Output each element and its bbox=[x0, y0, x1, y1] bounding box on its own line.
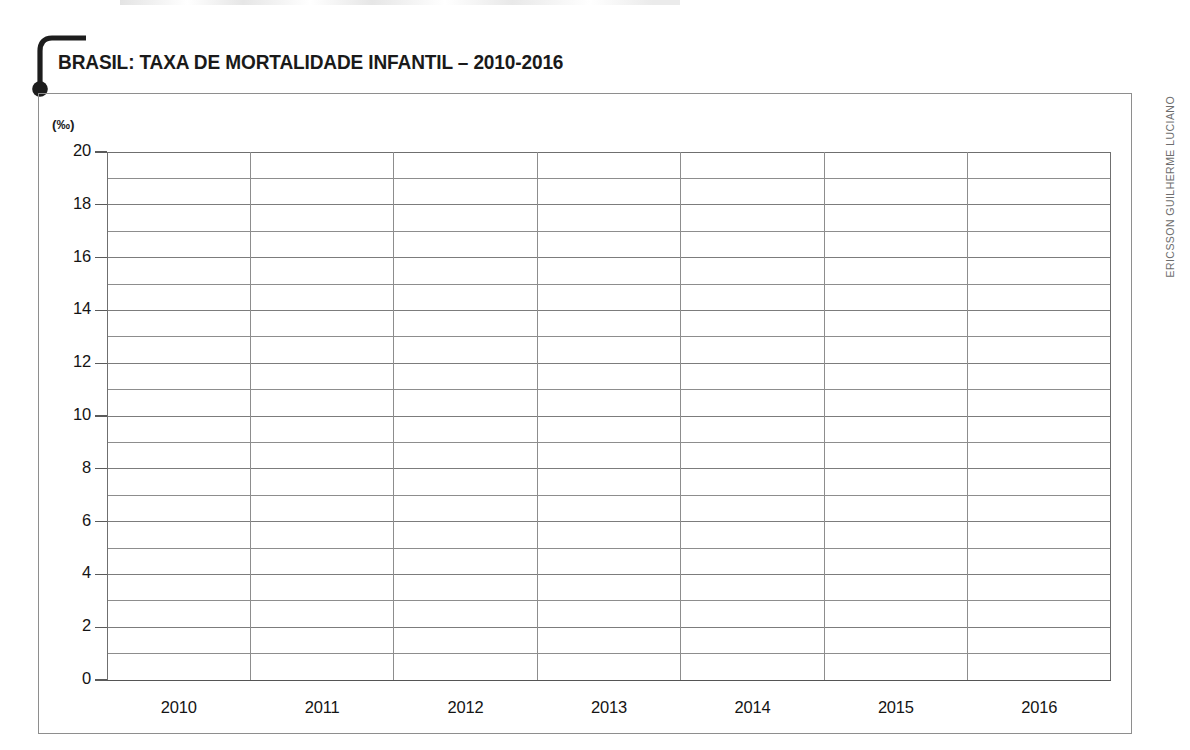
chart-page: BRASIL: TAXA DE MORTALIDADE INFANTIL – 2… bbox=[0, 0, 1190, 750]
y-axis-tick bbox=[95, 521, 107, 522]
gridline-horizontal bbox=[107, 310, 1111, 311]
gridline-horizontal bbox=[107, 416, 1111, 417]
y-axis-tick bbox=[95, 468, 107, 469]
scan-artifact bbox=[120, 0, 680, 5]
y-axis-tick-label: 6 bbox=[45, 511, 91, 530]
x-axis-tick-label: 2015 bbox=[878, 698, 914, 717]
gridline-horizontal bbox=[107, 389, 1111, 390]
y-axis-tick bbox=[95, 363, 107, 364]
gridline-horizontal bbox=[107, 442, 1111, 443]
x-axis-tick-label: 2011 bbox=[305, 698, 340, 717]
chart-title: BRASIL: TAXA DE MORTALIDADE INFANTIL – 2… bbox=[58, 50, 563, 74]
y-axis-tick-label: 4 bbox=[45, 563, 91, 582]
x-axis-tick-label: 2010 bbox=[161, 698, 197, 717]
y-axis-tick bbox=[95, 415, 107, 416]
gridline-horizontal bbox=[107, 653, 1111, 654]
y-axis-tick-label: 2 bbox=[45, 616, 91, 635]
gridline-horizontal bbox=[107, 600, 1111, 601]
y-axis-tick bbox=[95, 627, 107, 628]
y-axis-tick-label: 14 bbox=[45, 299, 91, 318]
gridline-vertical bbox=[537, 152, 538, 680]
gridline-horizontal bbox=[107, 336, 1111, 337]
gridline-vertical bbox=[824, 152, 825, 680]
gridline-vertical bbox=[680, 152, 681, 680]
y-axis-tick-label: 20 bbox=[45, 141, 91, 160]
y-axis-tick bbox=[95, 679, 107, 680]
y-axis-tick-label: 10 bbox=[45, 405, 91, 424]
gridline-vertical bbox=[107, 152, 108, 680]
x-axis-tick-label: 2014 bbox=[734, 698, 770, 717]
x-axis-tick-label: 2013 bbox=[591, 698, 627, 717]
gridline-horizontal bbox=[107, 627, 1111, 628]
gridline-horizontal bbox=[107, 521, 1111, 522]
y-axis-tick bbox=[95, 310, 107, 311]
gridline-horizontal bbox=[107, 495, 1111, 496]
gridline-horizontal bbox=[107, 548, 1111, 549]
y-axis-tick-label: 0 bbox=[45, 669, 91, 688]
y-axis-tick bbox=[95, 257, 107, 258]
plot-area: 02468101214161820 2010201120122013201420… bbox=[107, 152, 1111, 680]
gridline-horizontal bbox=[107, 284, 1111, 285]
y-axis-unit-label: (‰) bbox=[52, 117, 75, 132]
y-axis-tick bbox=[95, 151, 107, 152]
y-axis-tick bbox=[95, 574, 107, 575]
x-axis-tick-label: 2012 bbox=[448, 698, 484, 717]
y-axis-tick bbox=[95, 204, 107, 205]
grid-layer bbox=[107, 152, 1111, 680]
credit-text: ERICSSON GUILHERME LUCIANO bbox=[1164, 96, 1176, 277]
x-axis-tick-label: 2016 bbox=[1021, 698, 1057, 717]
gridline-vertical bbox=[393, 152, 394, 680]
gridline-horizontal bbox=[107, 680, 1111, 682]
gridline-horizontal bbox=[107, 257, 1111, 258]
gridline-vertical bbox=[1110, 152, 1111, 680]
gridline-horizontal bbox=[107, 231, 1111, 232]
y-axis-tick-label: 16 bbox=[45, 247, 91, 266]
gridline-horizontal bbox=[107, 178, 1111, 179]
y-axis-tick-label: 12 bbox=[45, 352, 91, 371]
gridline-horizontal bbox=[107, 363, 1111, 364]
gridline-vertical bbox=[250, 152, 251, 680]
gridline-horizontal bbox=[107, 152, 1111, 153]
gridline-horizontal bbox=[107, 204, 1111, 205]
gridline-horizontal bbox=[107, 468, 1111, 469]
gridline-vertical bbox=[967, 152, 968, 680]
y-axis-tick-label: 18 bbox=[45, 194, 91, 213]
gridline-horizontal bbox=[107, 574, 1111, 575]
y-axis-tick-label: 8 bbox=[45, 458, 91, 477]
